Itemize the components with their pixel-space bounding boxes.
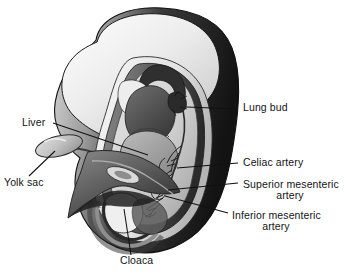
label-celiac-artery: Celiac artery: [243, 156, 304, 168]
label-liver: Liver: [22, 116, 46, 128]
label-lung-bud: Lung bud: [243, 101, 288, 113]
label-cloaca: Cloaca: [120, 254, 153, 266]
label-yolk-sac: Yolk sac: [4, 176, 44, 188]
embryo-diagram-svg: a.b.R. Lung bud Celiac artery Superior m…: [0, 0, 344, 277]
label-superior-mesenteric-artery-line2: artery: [276, 189, 304, 201]
embryo-diagram-figure: a.b.R. Lung bud Celiac artery Superior m…: [0, 0, 344, 277]
artist-signature: a.b.R.: [90, 204, 102, 209]
label-inferior-mesenteric-artery-line2: artery: [262, 220, 290, 232]
